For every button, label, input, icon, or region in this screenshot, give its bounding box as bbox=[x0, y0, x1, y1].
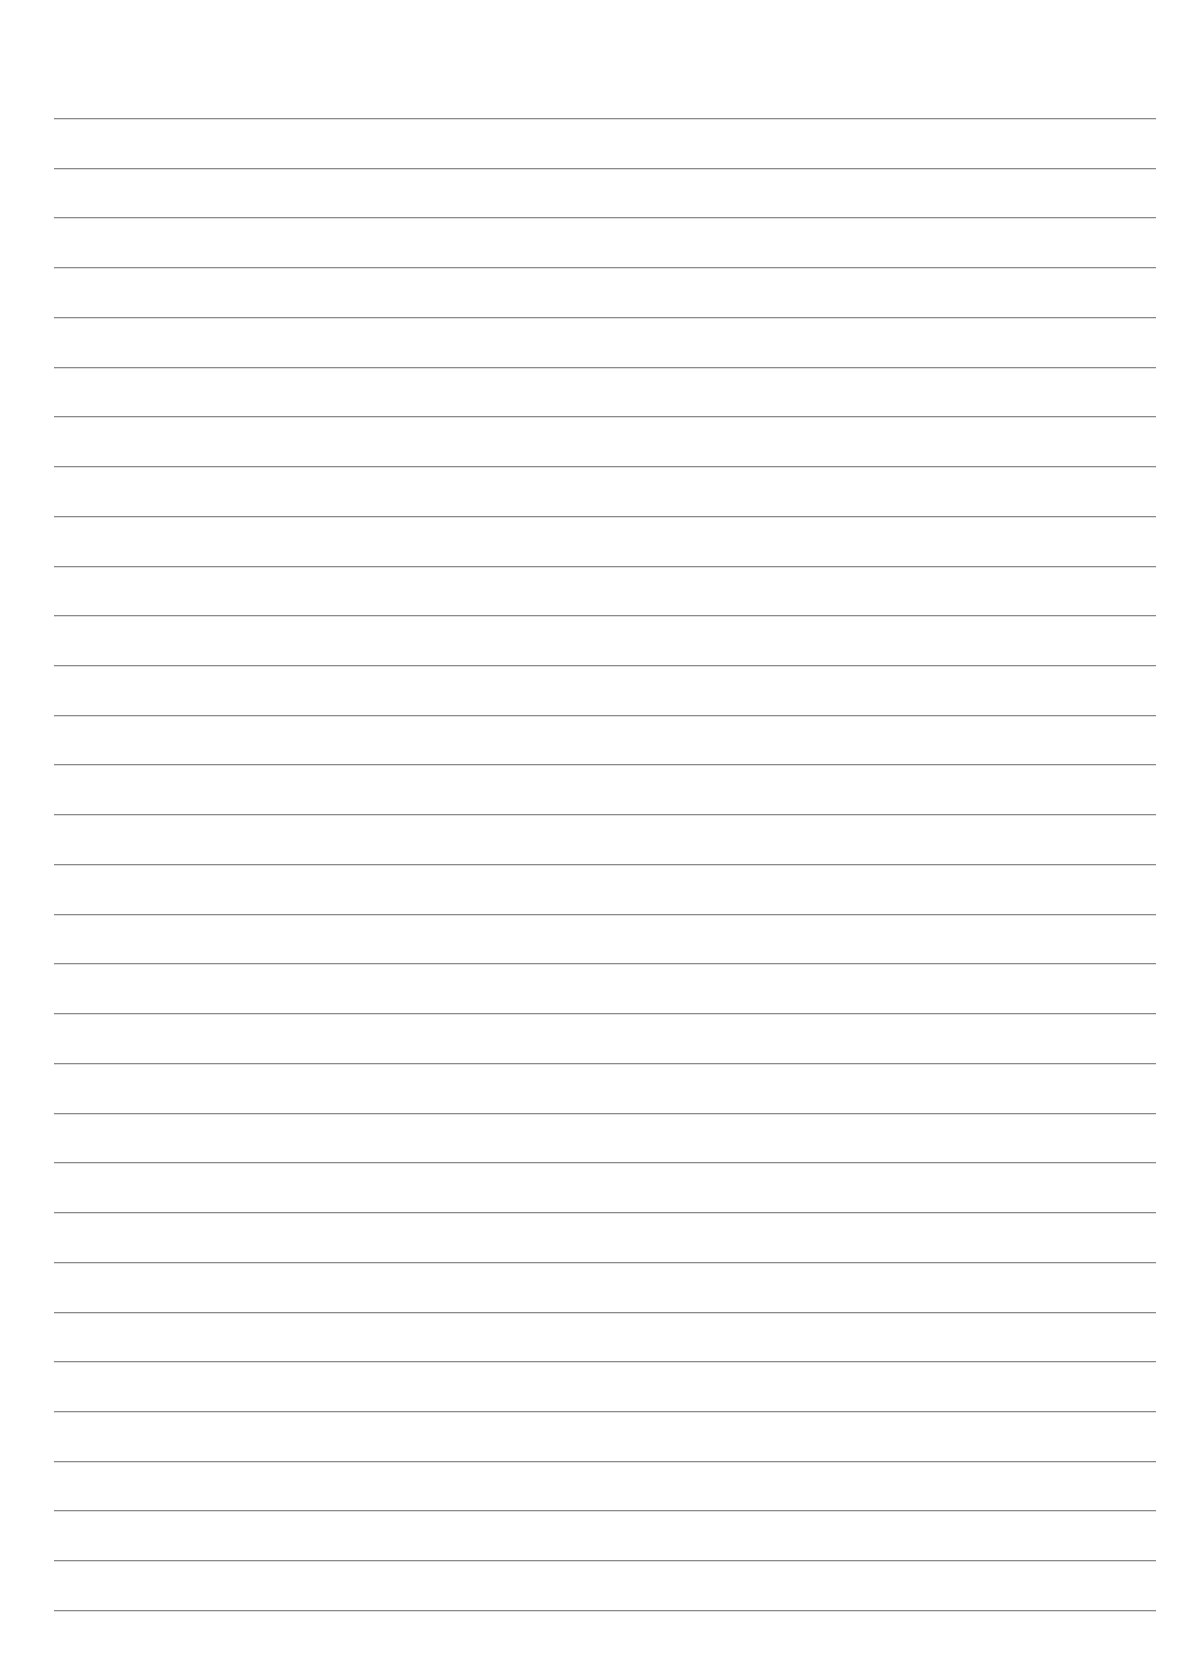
ruled-line bbox=[54, 1063, 1156, 1064]
ruled-line bbox=[54, 1113, 1156, 1114]
ruled-line bbox=[54, 1262, 1156, 1263]
ruled-line bbox=[54, 864, 1156, 865]
ruled-line bbox=[54, 1162, 1156, 1163]
ruled-line bbox=[54, 665, 1156, 666]
ruled-line bbox=[54, 416, 1156, 417]
ruled-line bbox=[54, 1610, 1156, 1611]
ruled-line bbox=[54, 914, 1156, 915]
ruled-line bbox=[54, 764, 1156, 765]
ruled-line bbox=[54, 1312, 1156, 1313]
ruled-line bbox=[54, 1560, 1156, 1561]
ruled-line bbox=[54, 615, 1156, 616]
ruled-line bbox=[54, 1013, 1156, 1014]
lined-paper-sheet bbox=[0, 0, 1200, 1666]
ruled-line bbox=[54, 118, 1156, 119]
ruled-line bbox=[54, 516, 1156, 517]
ruled-line bbox=[54, 1411, 1156, 1412]
ruled-line bbox=[54, 267, 1156, 268]
ruled-line bbox=[54, 168, 1156, 169]
ruled-line bbox=[54, 1510, 1156, 1511]
ruled-line bbox=[54, 715, 1156, 716]
ruled-line bbox=[54, 1461, 1156, 1462]
ruled-line bbox=[54, 1212, 1156, 1213]
ruled-line bbox=[54, 1361, 1156, 1362]
ruled-line bbox=[54, 466, 1156, 467]
ruled-line bbox=[54, 963, 1156, 964]
ruled-line bbox=[54, 217, 1156, 218]
ruled-line bbox=[54, 317, 1156, 318]
ruled-line bbox=[54, 814, 1156, 815]
ruled-line bbox=[54, 566, 1156, 567]
ruled-line bbox=[54, 367, 1156, 368]
